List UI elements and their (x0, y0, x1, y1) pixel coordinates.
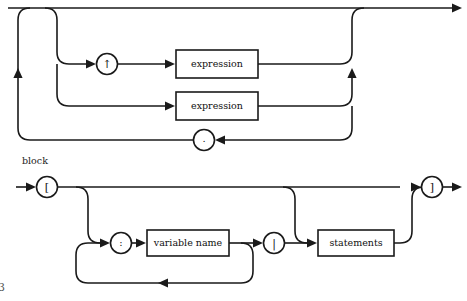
caret-entry-arrowhead (86, 59, 96, 68)
upper-branch-rail (45, 8, 86, 64)
expression-lower-exit-rail (258, 78, 352, 106)
railroad-diagram-page: ↑ expression expression . block (0, 0, 467, 301)
syntax-diagram-canvas: ↑ expression expression . block (0, 0, 467, 301)
period-return-arrowhead (215, 135, 225, 144)
block-temporaries-descend-rail (76, 187, 100, 243)
caret-terminal-label: ↑ (102, 58, 111, 71)
expression-upper-entry-arrowhead (165, 59, 175, 68)
variable-name-box-label: variable name (153, 237, 223, 248)
diagram-statements-fragment: ↑ expression expression . (8, 3, 462, 150)
expression-upper-exit-rail (258, 8, 364, 64)
expression-box-upper-label: expression (191, 58, 243, 69)
variable-name-entry-arrowhead (136, 238, 146, 247)
block-caption: block (22, 155, 48, 166)
colon-entry-arrowhead (100, 238, 110, 247)
close-bracket-terminal-label: ] (430, 181, 434, 194)
diagram-block: [ : variable name | (16, 177, 462, 288)
block-entry-arrowhead (26, 182, 36, 191)
pipe-terminal-label: | (272, 237, 276, 251)
upper-merge-arrowhead (347, 68, 356, 78)
pipe-entry-arrowhead (253, 238, 263, 247)
statements-entry-arrowhead (307, 238, 317, 247)
period-terminal-label: . (202, 133, 205, 144)
page-folio: 3 (0, 281, 5, 294)
statements-exit-rail (394, 187, 424, 243)
expression-lower-entry-arrowhead (165, 101, 175, 110)
statements-box-label: statements (329, 237, 382, 248)
upper-left-loopback-arrowhead (13, 68, 22, 78)
block-exit-arrowhead (452, 182, 462, 191)
block-statements-descend-rail (283, 187, 307, 243)
variable-repeat-loop-arrowhead (158, 278, 168, 287)
open-bracket-terminal-label: [ (45, 181, 49, 194)
upper-exit-arrowhead (452, 3, 462, 12)
colon-terminal-label: : (119, 237, 122, 248)
expression-box-lower-label: expression (191, 100, 243, 111)
